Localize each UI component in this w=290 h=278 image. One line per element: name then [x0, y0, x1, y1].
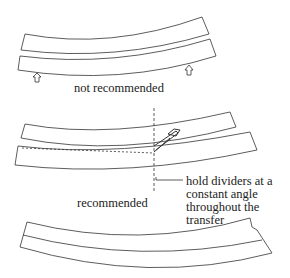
annotation-line: transfer — [186, 214, 290, 227]
annotation-hold-dividers: hold dividers at a constant angle throug… — [186, 175, 290, 227]
dividers-icon — [154, 129, 180, 152]
label-not-recommended: not recommended — [74, 82, 164, 95]
arrow-up-icon — [33, 73, 41, 82]
arrow-up-icon — [185, 65, 193, 75]
transfer-dotted-line — [22, 148, 154, 153]
diagram-canvas — [0, 0, 290, 278]
strip-lower-recommended — [15, 132, 257, 169]
annotation-leader-line — [156, 177, 183, 180]
strip-upper-recommended — [21, 112, 236, 146]
strip-upper-not-recommended — [21, 17, 209, 54]
label-recommended: recommended — [77, 197, 148, 210]
